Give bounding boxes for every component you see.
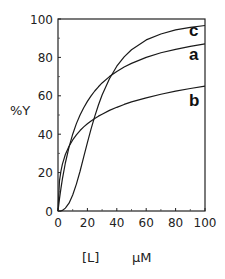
y-axis-ticks: 020406080100 <box>30 13 61 219</box>
x-tick-label: 80 <box>168 216 183 230</box>
series-label-c: c <box>189 21 198 40</box>
series-label-b: b <box>189 91 199 110</box>
curve-c <box>58 26 205 211</box>
x-tick-label: 20 <box>80 216 95 230</box>
curve-a <box>58 44 205 211</box>
y-tick-label: 40 <box>38 128 53 142</box>
x-axis-variable-label: [L] <box>82 250 99 265</box>
x-axis-unit-label: µM <box>132 250 152 265</box>
curve-b <box>58 86 205 211</box>
y-tick-label: 100 <box>30 13 53 27</box>
y-tick-label: 20 <box>38 166 53 180</box>
y-tick-label: 80 <box>38 51 53 65</box>
y-axis-label: %Y <box>10 103 30 118</box>
series-label-a: a <box>189 45 199 64</box>
x-tick-label: 0 <box>54 216 62 230</box>
saturation-curve-chart: 020406080100 020406080100 %Y [L] µM c a … <box>0 0 225 279</box>
x-tick-label: 100 <box>194 216 217 230</box>
x-tick-label: 40 <box>109 216 124 230</box>
curves <box>58 26 205 211</box>
y-tick-label: 60 <box>38 89 53 103</box>
y-tick-label: 0 <box>45 205 53 219</box>
x-tick-label: 60 <box>139 216 154 230</box>
